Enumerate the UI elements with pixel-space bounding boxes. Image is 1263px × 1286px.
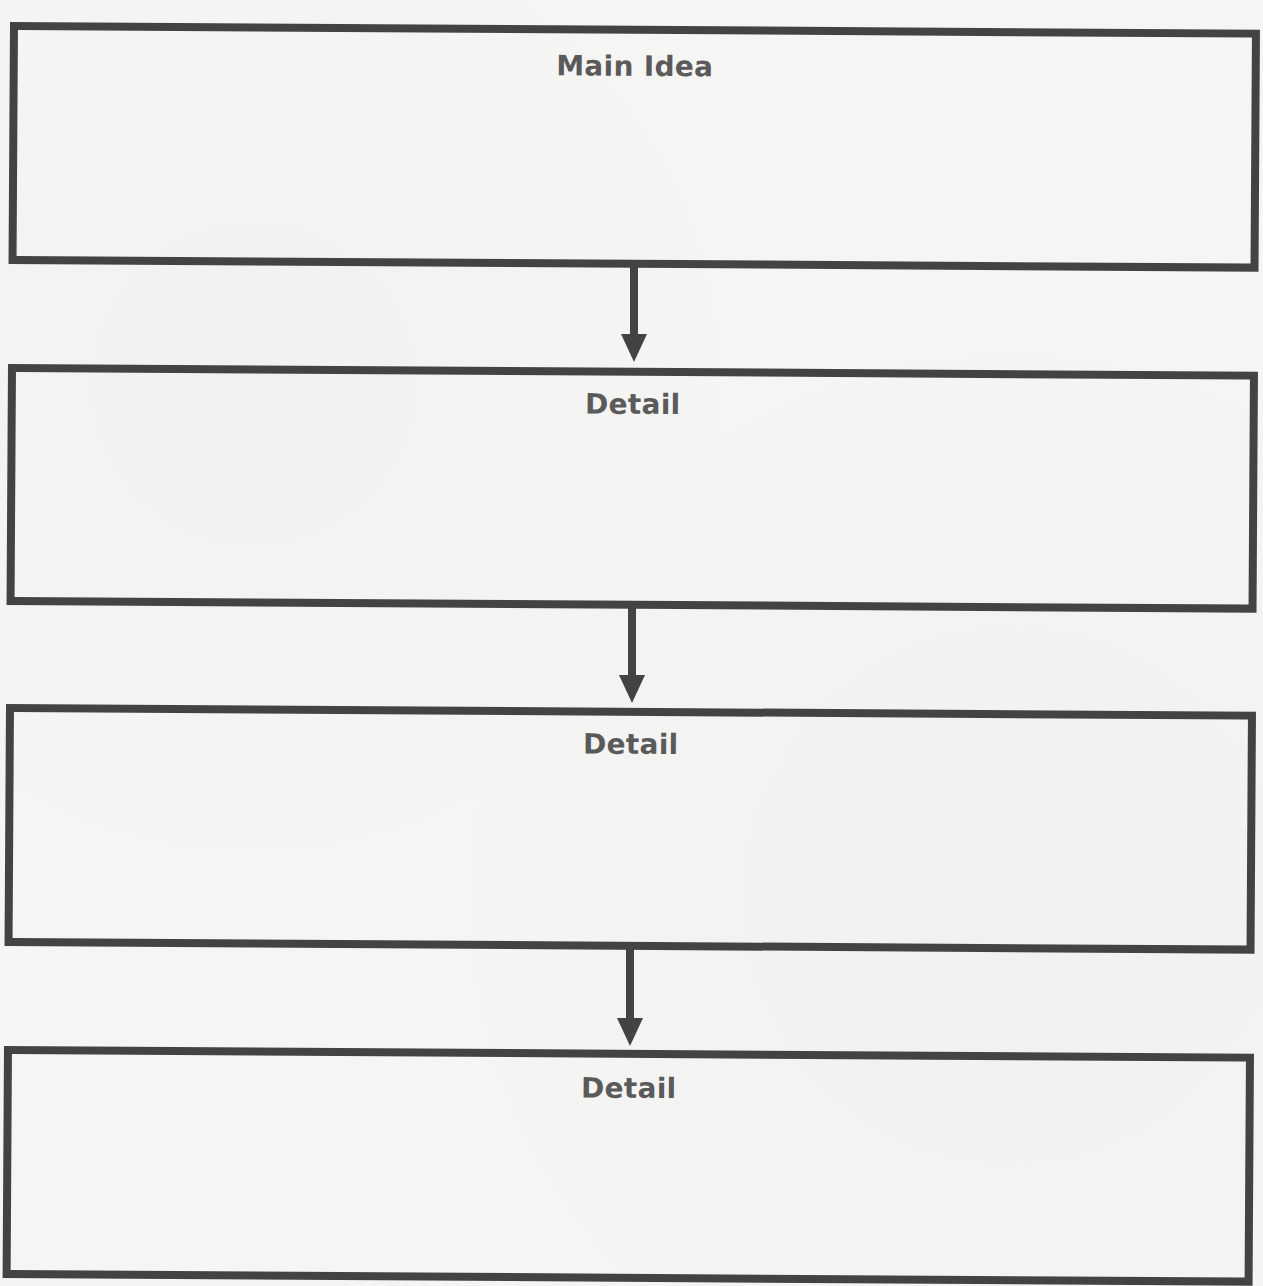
down-arrow-icon bbox=[610, 944, 650, 1048]
detail-title-2: Detail bbox=[14, 724, 1248, 765]
detail-title-3: Detail bbox=[12, 1068, 1246, 1109]
detail-title-1: Detail bbox=[16, 384, 1250, 425]
detail-body-1 bbox=[16, 372, 1250, 380]
main-idea-title: Main Idea bbox=[18, 46, 1252, 87]
detail-box-3[interactable]: Detail bbox=[3, 1046, 1254, 1286]
detail-box-2[interactable]: Detail bbox=[5, 704, 1256, 954]
detail-body-3 bbox=[12, 1054, 1246, 1062]
down-arrow-icon bbox=[612, 603, 652, 705]
detail-box-1[interactable]: Detail bbox=[7, 364, 1258, 613]
main-idea-body bbox=[18, 30, 1252, 38]
detail-body-2 bbox=[14, 712, 1248, 720]
down-arrow-icon bbox=[614, 262, 654, 364]
main-idea-box[interactable]: Main Idea bbox=[9, 22, 1260, 272]
